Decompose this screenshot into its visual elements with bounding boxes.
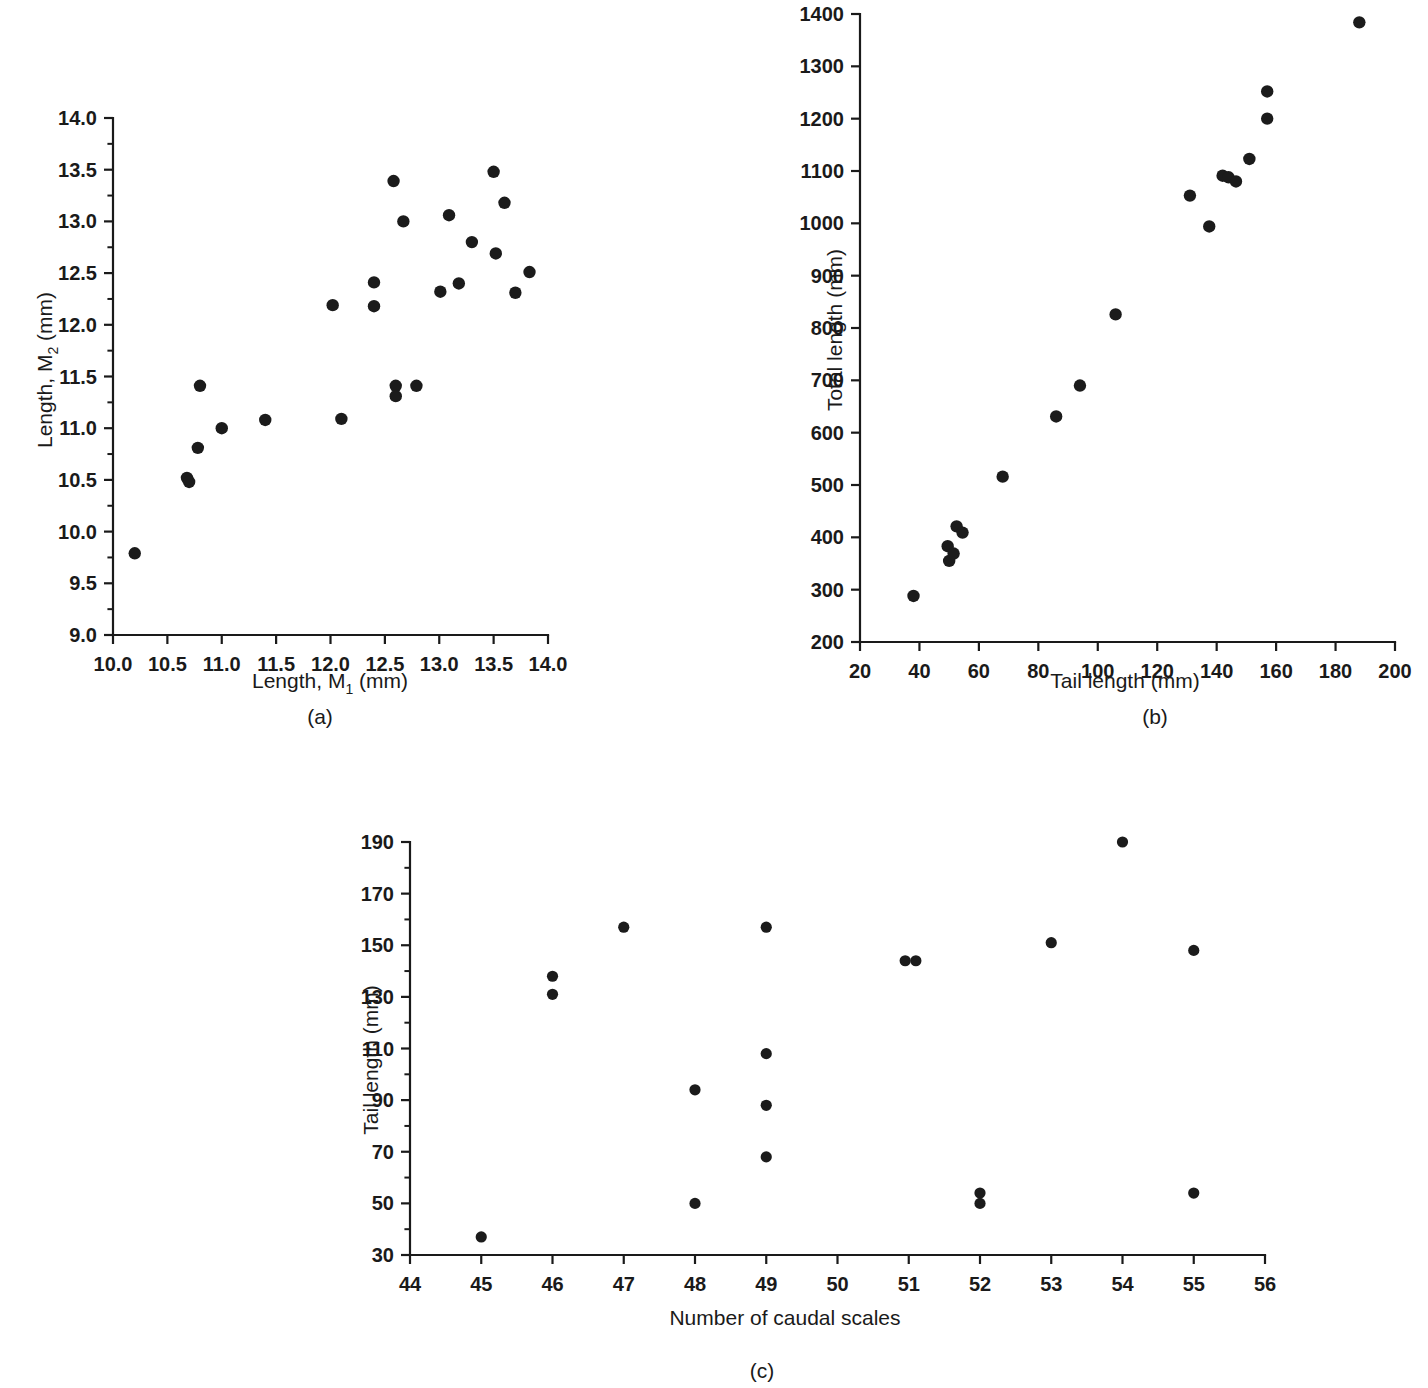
data-point <box>1188 1187 1199 1198</box>
data-point <box>129 547 141 559</box>
x-tick-label: 13.5 <box>474 653 513 675</box>
data-point <box>974 1187 985 1198</box>
data-point <box>761 1151 772 1162</box>
y-tick-label: 70 <box>372 1141 394 1163</box>
x-tick-label: 14.0 <box>529 653 568 675</box>
y-tick-label: 150 <box>361 934 394 956</box>
y-tick-label: 190 <box>361 831 394 853</box>
x-tick-label: 200 <box>1378 660 1411 682</box>
y-tick-label: 1200 <box>800 108 845 130</box>
x-tick-label: 51 <box>898 1273 920 1295</box>
y-tick-label: 600 <box>811 422 844 444</box>
data-point <box>900 955 911 966</box>
data-point <box>434 286 446 298</box>
y-tick-label: 9.5 <box>69 572 97 594</box>
data-point <box>183 476 195 488</box>
data-point <box>410 380 422 392</box>
data-point <box>547 989 558 1000</box>
data-point <box>547 971 558 982</box>
data-point <box>490 247 502 259</box>
y-axis-title-a-tail: (mm) <box>33 292 56 347</box>
y-tick-label: 1000 <box>800 212 845 234</box>
x-tick-label: 40 <box>908 660 930 682</box>
y-tick-label: 13.5 <box>58 159 97 181</box>
y-tick-label: 12.0 <box>58 314 97 336</box>
data-point <box>1109 308 1121 320</box>
data-point <box>907 590 919 602</box>
y-tick-label: 12.5 <box>58 262 97 284</box>
data-point <box>476 1231 487 1242</box>
data-point <box>192 442 204 454</box>
plot-c-axes: 4445464748495051525354555630507090110130… <box>361 831 1277 1295</box>
data-point <box>390 390 402 402</box>
data-point <box>996 470 1008 482</box>
y-tick-label: 14.0 <box>58 107 97 129</box>
data-point <box>1230 175 1242 187</box>
data-point <box>761 1100 772 1111</box>
y-axis-title-b: Total length (mm) <box>823 249 846 411</box>
y-tick-label: 1300 <box>800 55 845 77</box>
data-point <box>194 380 206 392</box>
y-tick-label: 30 <box>372 1244 394 1266</box>
x-tick-label: 55 <box>1183 1273 1205 1295</box>
x-tick-label: 80 <box>1027 660 1049 682</box>
x-tick-label: 47 <box>613 1273 635 1295</box>
y-axis-title-a: Length, M2 (mm) <box>33 292 61 448</box>
data-point <box>1261 85 1273 97</box>
data-point <box>1203 220 1215 232</box>
data-point <box>368 300 380 312</box>
data-point <box>910 955 921 966</box>
panel-a: 10.010.511.011.512.012.513.013.514.09.09… <box>0 0 620 760</box>
data-point <box>956 526 968 538</box>
y-tick-label: 13.0 <box>58 210 97 232</box>
x-axis-title-a-tail: (mm) <box>353 669 408 692</box>
x-tick-label: 11.0 <box>203 653 241 675</box>
x-tick-label: 44 <box>399 1273 422 1295</box>
y-tick-label: 10.0 <box>58 521 97 543</box>
y-tick-label: 9.0 <box>69 624 97 646</box>
x-tick-label: 49 <box>755 1273 777 1295</box>
panel-caption-c: (c) <box>750 1359 775 1382</box>
x-axis-title-a-main: Length, M <box>252 669 345 692</box>
y-tick-label: 50 <box>372 1192 394 1214</box>
data-point <box>1243 153 1255 165</box>
data-point <box>761 922 772 933</box>
data-point <box>689 1084 700 1095</box>
data-point <box>1353 16 1365 28</box>
x-axis-title-b: Tail length (mm) <box>1050 669 1199 692</box>
scatter-plot-a: 10.010.511.011.512.012.513.013.514.09.09… <box>0 0 620 760</box>
panel-c: 4445464748495051525354555630507090110130… <box>330 800 1330 1388</box>
data-point <box>1117 836 1128 847</box>
panel-caption-b: (b) <box>1142 705 1168 728</box>
x-tick-label: 10.0 <box>94 653 133 675</box>
data-point <box>453 277 465 289</box>
y-axis-title-a-main: Length, M <box>33 355 56 448</box>
data-point <box>443 209 455 221</box>
y-tick-label: 10.5 <box>58 469 97 491</box>
data-point <box>974 1198 985 1209</box>
x-tick-label: 20 <box>849 660 871 682</box>
y-tick-label: 500 <box>811 474 844 496</box>
data-point <box>387 175 399 187</box>
y-tick-label: 11.0 <box>59 417 97 439</box>
y-tick-label: 1100 <box>801 160 844 182</box>
panel-b: 2040608010012014016018020020030040050060… <box>800 0 1428 760</box>
scatter-plot-c: 4445464748495051525354555630507090110130… <box>330 800 1330 1388</box>
data-point <box>487 166 499 178</box>
x-tick-label: 56 <box>1254 1273 1276 1295</box>
y-tick-label: 400 <box>811 526 844 548</box>
data-point <box>466 236 478 248</box>
x-tick-label: 13.0 <box>420 653 459 675</box>
x-axis-title-a-sub: 1 <box>345 681 353 697</box>
panel-caption-a: (a) <box>307 705 333 728</box>
x-axis-title-c: Number of caudal scales <box>669 1306 900 1329</box>
data-point <box>523 266 535 278</box>
data-point <box>216 422 228 434</box>
x-tick-label: 53 <box>1040 1273 1062 1295</box>
x-tick-label: 46 <box>541 1273 563 1295</box>
y-tick-label: 300 <box>811 579 844 601</box>
plot-a-axes: 10.010.511.011.512.012.513.013.514.09.09… <box>58 107 567 675</box>
data-point <box>618 922 629 933</box>
x-tick-label: 52 <box>969 1273 991 1295</box>
data-point <box>335 413 347 425</box>
